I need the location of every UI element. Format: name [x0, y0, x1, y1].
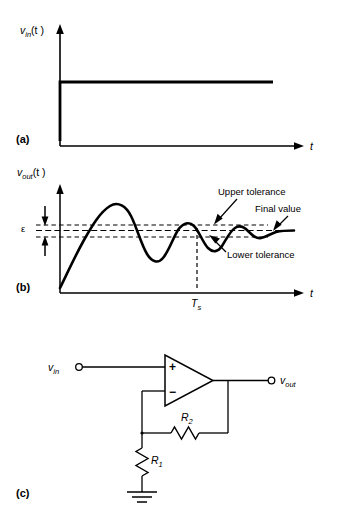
panel-a-x-axis-label: t: [310, 140, 314, 152]
circuit-input-terminal-node: [76, 364, 83, 371]
annotation-upper-tolerance-text: Upper tolerance: [218, 186, 286, 197]
annotation-lower-tolerance-arrowhead: [209, 235, 220, 244]
resistor-r2-label: R2: [181, 411, 194, 426]
annotation-lower-tolerance-text: Lower tolerance: [227, 249, 295, 260]
resistor-r2-zigzag: [171, 427, 199, 439]
annotation-final-value-arrowhead: [273, 220, 282, 231]
panel-b-y-axis-label: vout(t ): [17, 166, 46, 181]
circuit-input-label: vin: [48, 361, 59, 376]
panel-a-label: (a): [16, 133, 30, 145]
panel-b-epsilon-label: ε: [21, 223, 26, 234]
panel-a-y-axis-label: vin(t ): [20, 24, 44, 39]
panel-a: vin(t ) t (a): [16, 24, 314, 152]
opamp-inverting-input-sign: −: [169, 385, 176, 399]
opamp-noninverting-input-sign: +: [169, 360, 176, 374]
panel-c: vin + − vout R2 R1 (c): [16, 355, 297, 502]
panel-b-response-trace: [60, 204, 294, 288]
panel-b-settling-time-label: Ts: [191, 297, 201, 312]
panel-c-label: (c): [16, 487, 30, 499]
figure-svg: vin(t ) t (a) vout(t ) t ε: [0, 0, 337, 516]
circuit-output-label: vout: [280, 374, 297, 389]
circuit-output-terminal-node: [268, 377, 275, 384]
annotation-upper-tolerance-arrowhead: [214, 214, 223, 225]
annotation-final-value-text: Final value: [255, 203, 301, 214]
panel-a-y-axis-arrowhead: [56, 24, 64, 34]
annotation-upper-tolerance-leader: [219, 199, 237, 219]
panel-b-x-axis-arrowhead: [294, 289, 304, 296]
resistor-r1-zigzag: [136, 448, 148, 476]
figure-container: vin(t ) t (a) vout(t ) t ε: [0, 0, 337, 516]
panel-a-step-trace: [60, 82, 273, 141]
panel-b: vout(t ) t ε Ts Upper tolerance Final va…: [16, 166, 314, 312]
panel-b-label: (b): [16, 281, 30, 293]
resistor-r1-label: R1: [151, 454, 163, 469]
panel-b-y-axis-arrowhead: [56, 184, 63, 194]
panel-a-x-axis-arrowhead: [294, 142, 304, 150]
panel-b-x-axis-label: t: [310, 287, 314, 299]
